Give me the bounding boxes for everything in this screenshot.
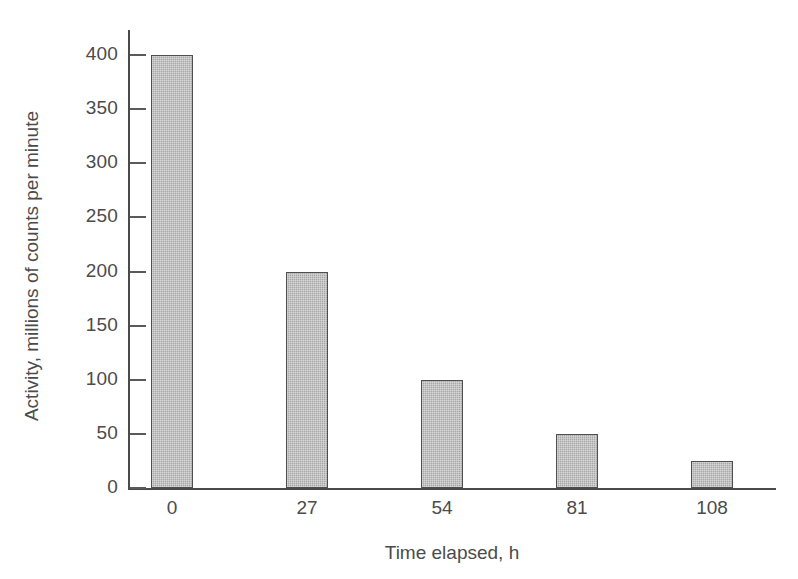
y-axis-title: Activity, millions of counts per minute bbox=[21, 56, 43, 476]
y-axis-tick-label-text: 0 bbox=[56, 476, 118, 498]
y-axis-tick-label-text: 250 bbox=[56, 205, 118, 227]
x-axis-line bbox=[128, 488, 776, 490]
y-axis-tick-label: 150 bbox=[48, 314, 118, 338]
y-axis-tick-label: 350 bbox=[48, 97, 118, 121]
y-axis-tick bbox=[130, 379, 146, 381]
y-axis-tick bbox=[130, 433, 146, 435]
y-axis-tick-label: 200 bbox=[48, 260, 118, 284]
y-axis-tick-label: 400 bbox=[48, 43, 118, 67]
y-axis-tick bbox=[130, 54, 146, 56]
bar bbox=[151, 55, 193, 488]
y-axis-tick bbox=[130, 162, 146, 164]
y-axis-tick-label: 0 bbox=[48, 476, 118, 500]
y-axis-tick bbox=[130, 216, 146, 218]
x-axis-tick-label: 54 bbox=[397, 497, 487, 519]
y-axis-tick bbox=[130, 325, 146, 327]
x-axis-tick-label: 0 bbox=[127, 497, 217, 519]
y-axis-tick-label-text: 400 bbox=[56, 43, 118, 65]
y-axis-tick-label-text: 200 bbox=[56, 260, 118, 282]
y-axis-tick bbox=[130, 108, 146, 110]
bar bbox=[691, 461, 733, 488]
y-axis-tick-label: 100 bbox=[48, 368, 118, 392]
chart-figure: Activity, millions of counts per minute … bbox=[0, 0, 798, 579]
y-axis-tick-label-text: 150 bbox=[56, 314, 118, 336]
x-axis-tick-label: 108 bbox=[667, 497, 757, 519]
x-axis-tick-label: 81 bbox=[532, 497, 622, 519]
y-axis-tick-label-text: 100 bbox=[56, 368, 118, 390]
bar bbox=[286, 272, 328, 489]
y-axis-tick bbox=[130, 271, 146, 273]
bar bbox=[421, 380, 463, 488]
y-axis-tick-label-text: 50 bbox=[56, 422, 118, 444]
y-axis-tick-label-text: 350 bbox=[56, 97, 118, 119]
y-axis-tick-label-text: 300 bbox=[56, 151, 118, 173]
y-axis-tick bbox=[130, 487, 146, 489]
x-axis-tick-label: 27 bbox=[262, 497, 352, 519]
y-axis-tick-label: 300 bbox=[48, 151, 118, 175]
x-axis-title: Time elapsed, h bbox=[128, 542, 776, 564]
y-axis-line bbox=[128, 30, 130, 490]
y-axis-tick-label: 50 bbox=[48, 422, 118, 446]
bar bbox=[556, 434, 598, 488]
y-axis-tick-label: 250 bbox=[48, 205, 118, 229]
